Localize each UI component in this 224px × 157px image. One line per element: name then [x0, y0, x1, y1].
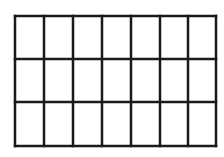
grid-cell-r3-c4: [102, 102, 131, 146]
grid-cell-r3-c5: [131, 102, 160, 146]
grid-cell-r2-c5: [131, 59, 160, 102]
grid-cell-r2-c6: [160, 59, 188, 102]
grid-cell-r3-c1: [15, 102, 44, 146]
grid-cell-r1-c7: [188, 16, 216, 59]
grid-cell-r2-c1: [15, 59, 44, 102]
grid-cell-r2-c7: [188, 59, 216, 102]
grid-cell-r3-c7: [188, 102, 216, 146]
grid-cell-r3-c6: [160, 102, 188, 146]
grid-diagram: [0, 0, 224, 157]
grid-cell-r1-c2: [44, 16, 73, 59]
grid-cell-r1-c6: [160, 16, 188, 59]
grid-cell-r2-c3: [73, 59, 102, 102]
grid-cell-r3-c3: [73, 102, 102, 146]
grid-cell-r1-c1: [15, 16, 44, 59]
grid-cell-r2-c2: [44, 59, 73, 102]
grid-cell-r2-c4: [102, 59, 131, 102]
grid-cell-r1-c3: [73, 16, 102, 59]
grid-cell-r1-c5: [131, 16, 160, 59]
grid-cell-r3-c2: [44, 102, 73, 146]
grid-cell-r1-c4: [102, 16, 131, 59]
